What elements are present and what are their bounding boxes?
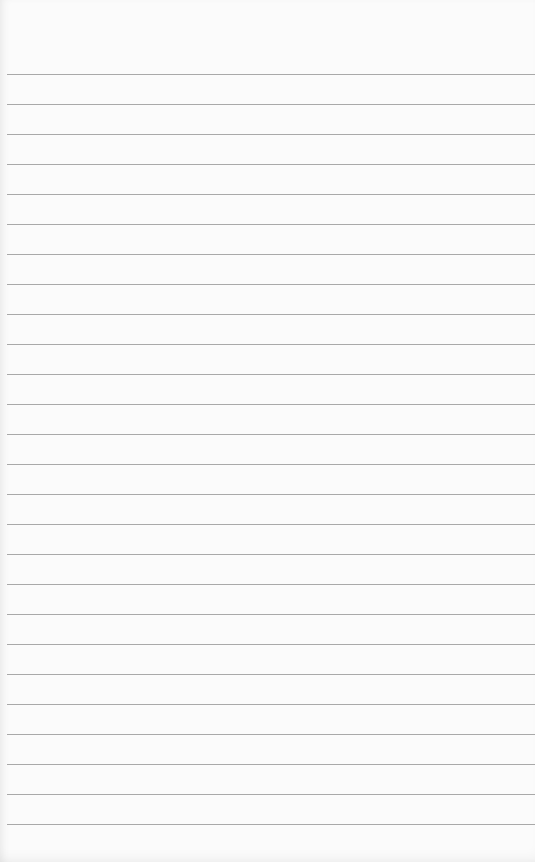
ruled-line — [7, 524, 535, 525]
ruled-line — [7, 644, 535, 645]
ruled-line — [7, 794, 535, 795]
ruled-line — [7, 674, 535, 675]
ruled-lines — [0, 0, 535, 862]
ruled-line — [7, 614, 535, 615]
ruled-line — [7, 104, 535, 105]
ruled-line — [7, 314, 535, 315]
ruled-line — [7, 434, 535, 435]
ruled-line — [7, 704, 535, 705]
lined-paper — [0, 0, 535, 862]
ruled-line — [7, 554, 535, 555]
ruled-line — [7, 134, 535, 135]
ruled-line — [7, 824, 535, 825]
ruled-line — [7, 494, 535, 495]
ruled-line — [7, 404, 535, 405]
ruled-line — [7, 734, 535, 735]
ruled-line — [7, 464, 535, 465]
ruled-line — [7, 764, 535, 765]
ruled-line — [7, 74, 535, 75]
ruled-line — [7, 164, 535, 165]
ruled-line — [7, 584, 535, 585]
ruled-line — [7, 344, 535, 345]
ruled-line — [7, 254, 535, 255]
ruled-line — [7, 284, 535, 285]
ruled-line — [7, 374, 535, 375]
ruled-line — [7, 194, 535, 195]
ruled-line — [7, 224, 535, 225]
